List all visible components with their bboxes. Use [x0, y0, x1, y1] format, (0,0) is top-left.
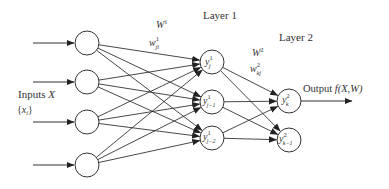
inputs-label: Inputs X	[18, 88, 56, 100]
neural-network-diagram: y1j y1j−1 y1j−2 y2k y2k−1 Inputs X {xi} …	[0, 0, 389, 189]
input-arrows	[33, 43, 74, 165]
output-node-1-label: y2k	[281, 92, 290, 107]
edges-input-to-layer1	[96, 45, 202, 163]
weight-matrix-2-label: W2	[252, 46, 264, 58]
weight-element-1-label: w1ji	[149, 35, 159, 50]
w1-edge-x2-h1	[99, 64, 200, 80]
input-node-2	[75, 70, 99, 94]
w2-edge-h3-o2	[224, 138, 277, 139]
input-node-4	[75, 153, 99, 177]
layer1-title: Layer 1	[203, 9, 237, 21]
w1-edge-x1-h3	[97, 50, 202, 130]
input-node-1	[75, 31, 99, 55]
w1-edge-x2-h3	[98, 87, 201, 133]
weight-element-2-label: w2kj	[250, 61, 261, 76]
layer2-title: Layer 2	[279, 31, 313, 43]
weight-matrix-1-label: W1	[156, 18, 168, 30]
inputs-set-label: {xi}	[17, 104, 33, 116]
hidden-layer-1: y1j y1j−1 y1j−2	[200, 50, 224, 150]
w1-edge-x4-h1	[96, 70, 202, 157]
input-layer	[75, 31, 99, 177]
output-layer-2: y2k y2k−1	[277, 89, 301, 152]
w2-edge-h1-o2	[220, 71, 280, 132]
input-node-3	[75, 110, 99, 134]
output-label: Output f(X,W)	[303, 83, 363, 95]
edges-layer1-to-layer2	[220, 67, 280, 139]
w2-edge-h2-o1	[224, 101, 277, 102]
